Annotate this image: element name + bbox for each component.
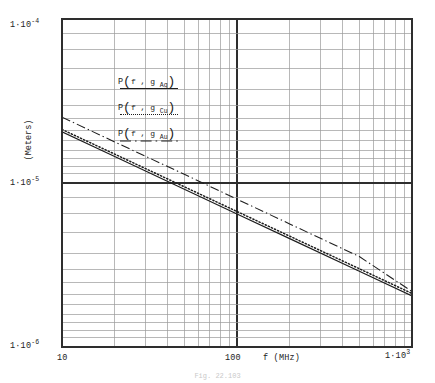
figure-caption: Fig. 22.103 xyxy=(0,372,435,380)
y-tick-label-1e-6: 1·10-6 xyxy=(10,341,39,351)
legend-item-cu: P(f , g Cu) xyxy=(112,100,200,126)
chart-plot-area xyxy=(0,0,435,383)
legend-label-ag: P(f , g Ag) xyxy=(118,74,175,89)
x-tick-label-10: 10 xyxy=(57,353,68,363)
x-axis-title: f (MHz) xyxy=(263,353,300,363)
x-tick-label-100: 100 xyxy=(225,353,241,363)
y-axis-title: (Meters) xyxy=(24,105,34,175)
y-tick-label-1e-5: 1·10-5 xyxy=(10,178,39,188)
y-tick-label-1e-4: 1·10-4 xyxy=(10,20,39,30)
legend-item-ag: P(f , g Ag) xyxy=(112,74,200,100)
legend-item-au: P(f , g Au) xyxy=(112,126,200,152)
legend-swatch-cu xyxy=(120,114,178,119)
legend-swatch-ag xyxy=(120,88,178,93)
legend-label-cu: P(f , g Cu) xyxy=(118,100,175,115)
chart-legend: P(f , g Ag) P(f , g Cu) P(f , g Au) xyxy=(112,74,200,152)
legend-label-au: P(f , g Au) xyxy=(118,126,175,141)
x-tick-label-1e3: 1·103 xyxy=(385,351,410,361)
figure-container: 1·10-4 1·10-5 1·10-6 (Meters) 10 100 1·1… xyxy=(0,0,435,383)
